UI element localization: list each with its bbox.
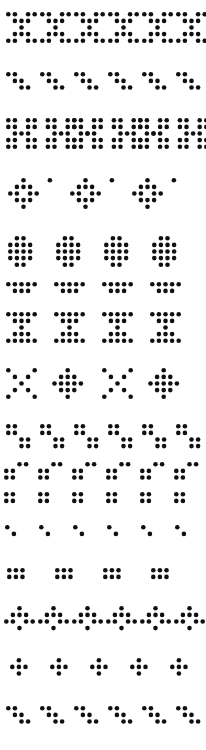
dot [90, 198, 95, 203]
dot [196, 19, 201, 24]
dot [63, 249, 68, 254]
dot [111, 262, 116, 267]
dot [19, 338, 24, 343]
dot [174, 469, 179, 474]
dot [122, 388, 127, 393]
dot [131, 118, 136, 123]
dot [74, 38, 79, 43]
dot [80, 532, 85, 537]
dot [26, 319, 31, 324]
dot [19, 381, 24, 386]
dot [128, 437, 133, 442]
dot [161, 381, 166, 386]
dot [115, 12, 120, 17]
dot [87, 25, 92, 30]
dot [125, 131, 130, 136]
dot [96, 191, 101, 196]
dot [94, 12, 99, 17]
dot [163, 312, 168, 317]
dot [6, 424, 11, 429]
dot [46, 118, 51, 123]
dot [90, 665, 95, 670]
dot [131, 131, 136, 136]
dot [109, 388, 114, 393]
dot [139, 198, 144, 203]
dot [47, 38, 52, 43]
dot [13, 79, 18, 84]
dot [54, 282, 59, 287]
dot [103, 575, 108, 580]
dot [194, 619, 199, 624]
dot [15, 256, 20, 261]
dot [162, 85, 167, 90]
dot [115, 282, 120, 287]
dot [32, 38, 37, 43]
dot [152, 256, 157, 261]
dot [4, 492, 9, 497]
dot [46, 532, 51, 537]
dot [113, 619, 118, 624]
dot [162, 38, 167, 43]
dot [81, 79, 86, 84]
dot [47, 12, 52, 17]
dot [159, 249, 164, 254]
dot [189, 32, 194, 37]
dot [28, 198, 33, 203]
dot [6, 706, 11, 711]
dot [32, 282, 37, 287]
dot [104, 249, 109, 254]
dot [13, 289, 18, 294]
dot [158, 131, 163, 136]
dot [172, 178, 177, 183]
dot [181, 499, 186, 504]
dot [11, 613, 16, 618]
dot [110, 575, 115, 580]
dot [26, 312, 31, 317]
dot [17, 462, 22, 467]
dot [20, 575, 25, 580]
dot [159, 256, 164, 261]
dot [194, 613, 199, 618]
dot [164, 138, 169, 143]
dot [81, 706, 86, 711]
dot [69, 262, 74, 267]
dot [145, 125, 150, 130]
dot [161, 375, 166, 380]
dot [118, 131, 123, 136]
dot [97, 665, 102, 670]
dot [74, 431, 79, 436]
dot [175, 381, 180, 386]
dot [147, 499, 152, 504]
dot [66, 38, 71, 43]
dot [26, 125, 31, 130]
dot [157, 289, 162, 294]
dot [19, 312, 24, 317]
dot [122, 312, 127, 317]
dot [26, 131, 31, 136]
dot [181, 619, 186, 624]
dot [69, 249, 74, 254]
dot [184, 125, 189, 130]
dot [189, 25, 194, 30]
dot [155, 19, 160, 24]
dot [177, 671, 182, 676]
dot [21, 262, 26, 267]
dot [164, 144, 169, 149]
dot [160, 613, 165, 618]
dot [19, 79, 24, 84]
dot [13, 706, 18, 711]
dot [124, 256, 129, 261]
dot [197, 138, 202, 143]
dot [124, 243, 129, 248]
dot [158, 575, 163, 580]
dot [142, 38, 147, 43]
dot [149, 38, 154, 43]
dot [108, 431, 113, 436]
dot [164, 568, 169, 573]
dot [51, 613, 56, 618]
dot [32, 12, 37, 17]
dot [162, 32, 167, 37]
dot [98, 125, 103, 130]
dot [15, 191, 20, 196]
dot [183, 431, 188, 436]
